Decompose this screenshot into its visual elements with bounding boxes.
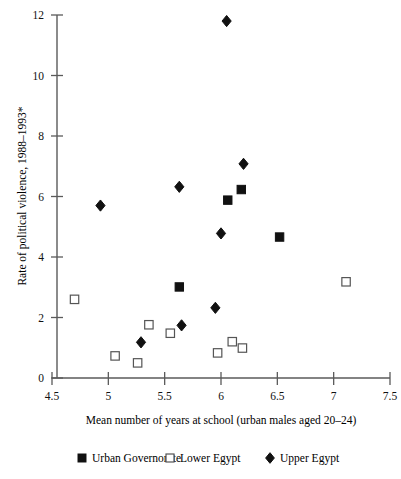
y-tick-group: 024681012: [33, 9, 64, 384]
legend-item-label: Lower Egypt: [180, 452, 241, 465]
data-point-lower-egypt: [228, 338, 236, 346]
data-point-lower-egypt: [145, 321, 153, 329]
data-point-urban-governorate: [275, 233, 283, 241]
x-tick-label: 6.5: [270, 390, 285, 402]
data-points-layer: [70, 15, 350, 367]
chart-canvas: 024681012 4.555.566.577.5 Rate of politi…: [0, 0, 401, 479]
data-point-upper-egypt: [177, 320, 186, 331]
data-point-upper-egypt: [239, 158, 248, 169]
x-tick-label: 7: [331, 390, 337, 402]
y-tick-label: 2: [38, 312, 44, 324]
data-point-upper-egypt: [222, 15, 231, 26]
series-upper-egypt: [96, 15, 248, 347]
legend: Urban GovernorateLower EgyptUpper Egypt: [78, 452, 340, 465]
data-point-lower-egypt: [166, 454, 174, 462]
data-point-urban-governorate: [175, 283, 183, 291]
data-point-lower-egypt: [70, 295, 78, 303]
y-tick-label: 6: [38, 191, 44, 203]
data-point-urban-governorate: [237, 185, 245, 193]
data-point-upper-egypt: [96, 200, 105, 211]
y-tick-label: 8: [38, 130, 44, 142]
data-point-urban-governorate: [78, 454, 86, 462]
legend-item-upper-egypt[interactable]: Upper Egypt: [266, 452, 340, 465]
x-tick-label: 6: [218, 390, 224, 402]
data-point-lower-egypt: [133, 359, 141, 367]
x-tick-label: 7.5: [383, 390, 398, 402]
data-point-lower-egypt: [342, 278, 350, 286]
y-tick-label: 10: [33, 70, 45, 82]
x-axis-title: Mean number of years at school (urban ma…: [86, 414, 357, 427]
data-point-lower-egypt: [166, 329, 174, 337]
data-point-urban-governorate: [224, 196, 232, 204]
scatter-plot-figure: 024681012 4.555.566.577.5 Rate of politi…: [0, 0, 401, 479]
data-point-upper-egypt: [175, 181, 184, 192]
data-point-upper-egypt: [266, 453, 275, 464]
series-urban-governorate: [175, 185, 284, 291]
y-axis-title: Rate of political violence, 1988–1993*: [16, 106, 29, 285]
y-tick-label: 4: [38, 251, 44, 263]
data-point-upper-egypt: [216, 228, 225, 239]
x-tick-label: 5.5: [157, 390, 172, 402]
data-point-upper-egypt: [136, 337, 145, 348]
y-tick-label: 0: [38, 372, 44, 384]
x-tick-label: 5: [105, 390, 111, 402]
data-point-lower-egypt: [238, 344, 246, 352]
data-point-upper-egypt: [211, 302, 220, 313]
legend-item-label: Upper Egypt: [280, 452, 340, 465]
data-point-lower-egypt: [111, 352, 119, 360]
x-tick-group: 4.555.566.577.5: [45, 372, 398, 402]
series-lower-egypt: [70, 278, 350, 367]
x-tick-label: 4.5: [45, 390, 60, 402]
y-tick-label: 12: [33, 9, 45, 21]
data-point-lower-egypt: [213, 349, 221, 357]
